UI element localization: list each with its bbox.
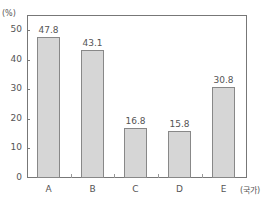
x-tick-label: A	[34, 184, 64, 194]
x-tick-label: B	[78, 184, 108, 194]
y-tick	[27, 89, 30, 90]
x-tick	[114, 174, 115, 178]
y-tick-label: 10	[0, 142, 22, 152]
value-label: 30.8	[204, 75, 244, 85]
y-tick-label: 30	[0, 83, 22, 93]
bar-c	[124, 128, 147, 178]
x-tick-label: C	[121, 184, 151, 194]
bar-d	[168, 131, 191, 178]
y-tick	[27, 119, 30, 120]
y-tick-label: 50	[0, 24, 22, 34]
x-tick	[202, 174, 203, 178]
y-tick-label: 20	[0, 113, 22, 123]
value-label: 43.1	[73, 38, 113, 48]
value-label: 16.8	[116, 116, 156, 126]
x-tick	[71, 174, 72, 178]
x-tick-label: D	[165, 184, 195, 194]
value-label: 47.8	[29, 25, 69, 35]
x-tick-label: E	[209, 184, 239, 194]
bar-e	[212, 87, 235, 178]
x-axis-unit: (국가)	[240, 184, 260, 195]
y-tick	[27, 60, 30, 61]
bar-b	[81, 50, 104, 178]
bar-a	[37, 37, 60, 178]
y-tick-label: 0	[0, 172, 22, 182]
value-label: 15.8	[160, 119, 200, 129]
y-tick	[27, 148, 30, 149]
y-tick-label: 40	[0, 54, 22, 64]
y-axis-unit: (%)	[2, 9, 16, 18]
x-tick	[158, 174, 159, 178]
